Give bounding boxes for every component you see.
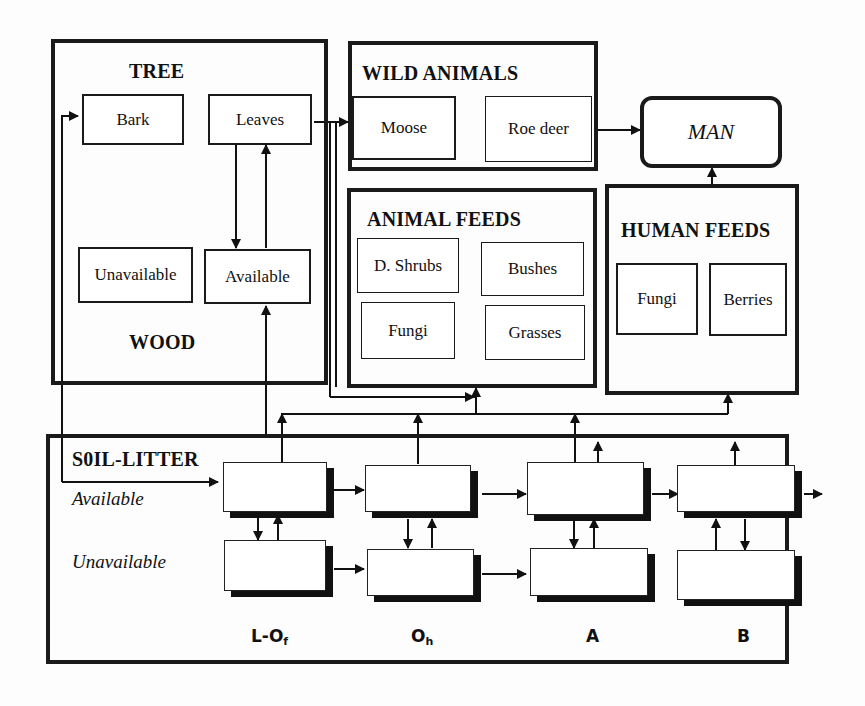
oh-available-box <box>365 465 471 512</box>
horizon-label-oh: Oh <box>411 626 433 648</box>
wood-unavailable-box: Unavailable <box>78 247 193 303</box>
a-available-box <box>527 462 644 515</box>
soil-litter-title: S0IL-LITTER <box>72 448 199 471</box>
lof-unavailable-box <box>224 540 326 591</box>
diagram-canvas: TREE WOOD Bark Leaves Unavailable Availa… <box>0 0 865 706</box>
moose-box: Moose <box>352 96 456 160</box>
roe-deer-box: Roe deer <box>485 96 592 162</box>
tree-group: TREE WOOD <box>51 39 328 385</box>
oh-unavailable-box <box>367 549 474 596</box>
bushes-box: Bushes <box>481 242 584 296</box>
d-shrubs-box: D. Shrubs <box>357 238 459 293</box>
animal-feeds-title: ANIMAL FEEDS <box>367 208 521 231</box>
a-unavailable-box <box>530 548 648 596</box>
horizon-label-a: A <box>586 626 599 646</box>
lof-available-box <box>223 462 327 512</box>
tree-title: TREE <box>129 60 184 83</box>
grasses-box: Grasses <box>485 305 585 360</box>
horizon-label-b: B <box>737 626 750 646</box>
man-node: MAN <box>640 96 782 168</box>
human-fungi-box: Fungi <box>616 263 698 335</box>
bark-box: Bark <box>82 94 184 145</box>
b-available-box <box>677 465 795 512</box>
leaves-box: Leaves <box>208 94 312 145</box>
wild-animals-title: WILD ANIMALS <box>362 62 518 85</box>
wood-available-box: Available <box>204 249 311 304</box>
horizon-label-lof: L-Of <box>251 626 288 648</box>
available-row-label: Available <box>72 488 144 510</box>
b-unavailable-box <box>677 550 795 600</box>
wood-title: WOOD <box>129 331 195 354</box>
human-feeds-title: HUMAN FEEDS <box>621 219 770 242</box>
animal-fungi-box: Fungi <box>361 302 455 359</box>
berries-box: Berries <box>709 263 787 336</box>
unavailable-row-label: Unavailable <box>72 551 166 573</box>
